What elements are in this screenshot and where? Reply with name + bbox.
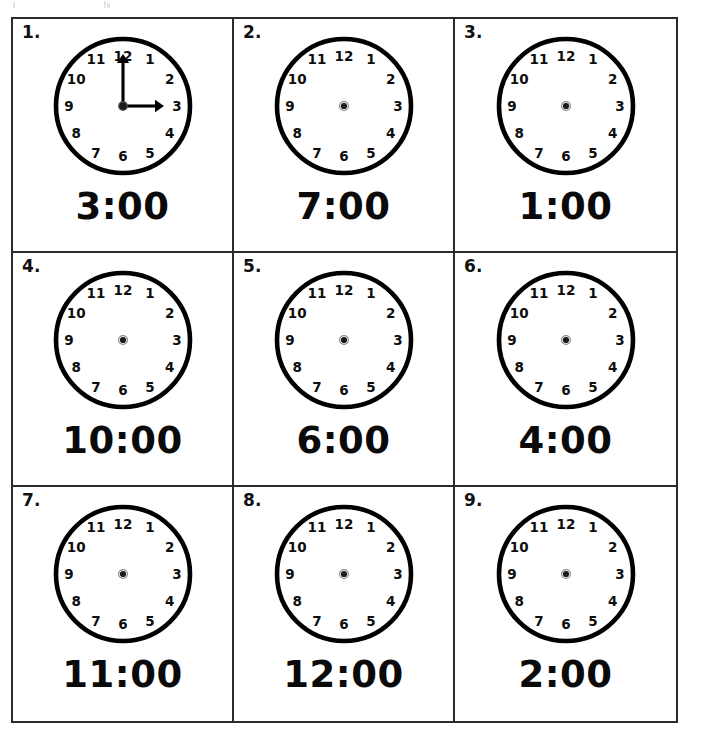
clock-numeral: 11 [307, 51, 326, 67]
clock-numeral: 4 [608, 593, 617, 609]
clock-numeral: 7 [534, 145, 543, 161]
clock-center-hub [118, 102, 126, 110]
clock-face[interactable]: 121234567891011 [271, 501, 417, 647]
item-number: 2. [243, 24, 262, 41]
clock-numeral: 6 [118, 616, 127, 632]
clock-center-hub [119, 337, 125, 343]
item-number: 1. [22, 24, 41, 41]
clock-numeral: 7 [534, 613, 543, 629]
clock-numeral: 3 [172, 332, 181, 348]
clock-numeral: 7 [534, 379, 543, 395]
clock-numeral: 3 [172, 98, 181, 114]
clock-numeral: 3 [172, 566, 181, 582]
clock-problem-cell: 1.1212345678910113:00 [13, 19, 234, 253]
clock-numeral: 8 [71, 125, 80, 141]
clock-numeral: 11 [529, 519, 548, 535]
clock-face[interactable]: 121234567891011 [50, 501, 196, 647]
clock-numeral: 7 [91, 613, 100, 629]
clock-problem-cell: 2.1212345678910117:00 [234, 19, 455, 253]
item-number: 5. [243, 258, 262, 275]
clock-numeral: 11 [307, 285, 326, 301]
clock-numeral: 10 [66, 305, 85, 321]
clock-center-hub [562, 103, 568, 109]
clock-numeral: 10 [66, 539, 85, 555]
time-label: 6:00 [296, 422, 390, 459]
clock-numeral: 3 [393, 566, 402, 582]
clock-center-hub [340, 571, 346, 577]
time-label: 10:00 [62, 422, 182, 459]
clock-numeral: 10 [287, 539, 306, 555]
clock-face[interactable]: 121234567891011 [50, 267, 196, 413]
clock-numeral: 2 [165, 305, 174, 321]
clock-face[interactable]: 121234567891011 [493, 33, 639, 179]
clock-numeral: 4 [608, 359, 617, 375]
clock-numeral: 4 [165, 593, 174, 609]
clock-numeral: 5 [145, 379, 154, 395]
clock-center-hub [562, 571, 568, 577]
clock-numeral: 5 [366, 145, 375, 161]
clock-numeral: 2 [165, 539, 174, 555]
clock-numeral: 2 [608, 71, 617, 87]
clock-face[interactable]: 121234567891011 [50, 33, 196, 179]
time-label: 7:00 [296, 188, 390, 225]
clock-numeral: 7 [312, 379, 321, 395]
clock-numeral: 5 [588, 379, 597, 395]
item-number: 4. [22, 258, 41, 275]
clock-numeral: 4 [386, 359, 395, 375]
clock-numeral: 9 [64, 98, 73, 114]
clock-numeral: 2 [386, 71, 395, 87]
clock-numeral: 6 [339, 382, 348, 398]
clock-numeral: 1 [145, 519, 154, 535]
clock-numeral: 12 [334, 282, 353, 298]
clock-numeral: 4 [386, 593, 395, 609]
clock-center-hub [340, 103, 346, 109]
clock-numeral: 10 [509, 305, 528, 321]
clock-face[interactable]: 121234567891011 [493, 267, 639, 413]
clock-numeral: 12 [334, 48, 353, 64]
clock-numeral: 3 [393, 98, 402, 114]
clock-numeral: 3 [615, 332, 624, 348]
item-number: 8. [243, 492, 262, 509]
clock-numeral: 6 [118, 382, 127, 398]
clock-numeral: 4 [165, 125, 174, 141]
clock-numeral: 12 [556, 282, 575, 298]
clock-numeral: 3 [393, 332, 402, 348]
item-number: 7. [22, 492, 41, 509]
clock-numeral: 7 [312, 145, 321, 161]
clock-numeral: 11 [86, 285, 105, 301]
clock-numeral: 8 [514, 593, 523, 609]
clock-numeral: 1 [145, 51, 154, 67]
clock-numeral: 4 [165, 359, 174, 375]
clock-numeral: 2 [608, 305, 617, 321]
clock-numeral: 6 [339, 148, 348, 164]
clock-numeral: 5 [588, 145, 597, 161]
clock-center-hub [119, 571, 125, 577]
clock-worksheet-grid: 1.1212345678910113:002.1212345678910117:… [11, 17, 678, 723]
clock-numeral: 4 [386, 125, 395, 141]
clock-numeral: 8 [292, 359, 301, 375]
clock-numeral: 6 [561, 382, 570, 398]
clock-numeral: 9 [507, 566, 516, 582]
clock-numeral: 11 [529, 285, 548, 301]
clock-numeral: 2 [165, 71, 174, 87]
clock-center-hub [562, 337, 568, 343]
clock-numeral: 10 [66, 71, 85, 87]
clock-numeral: 8 [514, 359, 523, 375]
clock-face[interactable]: 121234567891011 [493, 501, 639, 647]
clock-numeral: 3 [615, 98, 624, 114]
clock-problem-cell: 7.12123456789101111:00 [13, 487, 234, 721]
clock-numeral: 6 [339, 616, 348, 632]
clock-numeral: 11 [86, 51, 105, 67]
scan-artifact [13, 2, 15, 8]
clock-numeral: 7 [91, 145, 100, 161]
clock-face[interactable]: 121234567891011 [271, 33, 417, 179]
clock-numeral: 11 [86, 519, 105, 535]
item-number: 9. [464, 492, 483, 509]
clock-numeral: 8 [71, 359, 80, 375]
clock-face[interactable]: 121234567891011 [271, 267, 417, 413]
clock-numeral: 2 [386, 305, 395, 321]
clock-numeral: 9 [285, 332, 294, 348]
clock-numeral: 9 [507, 332, 516, 348]
clock-numeral: 2 [386, 539, 395, 555]
clock-numeral: 8 [292, 593, 301, 609]
